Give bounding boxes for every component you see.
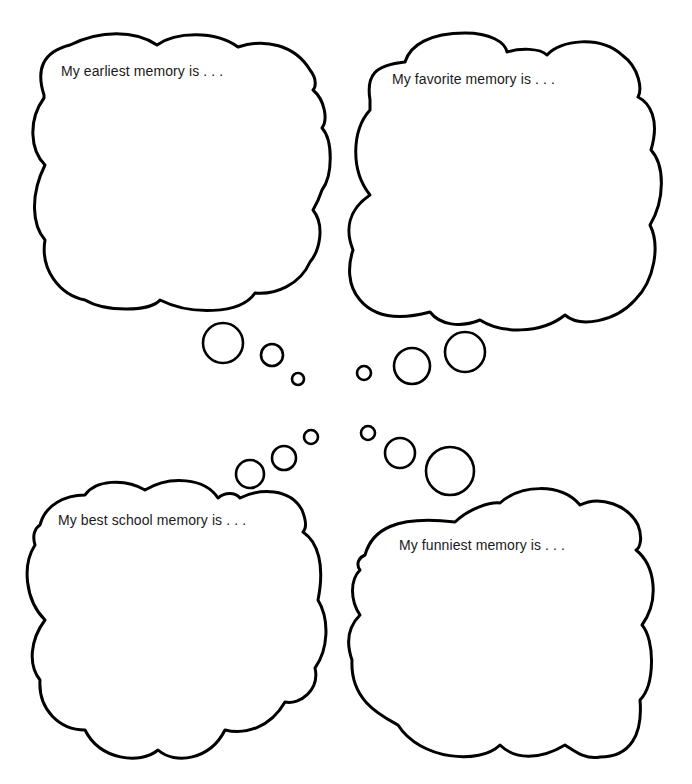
prompt-favorite-memory: My favorite memory is . . .: [392, 71, 555, 87]
bubble: [236, 460, 264, 488]
bubble: [357, 366, 371, 380]
bubble: [261, 344, 283, 366]
bubble: [304, 430, 318, 444]
thought-bubbles-bottom-right: [361, 426, 474, 495]
cloud-funniest-memory: [349, 489, 653, 758]
bubble: [385, 438, 415, 468]
worksheet-artwork: [0, 0, 692, 784]
bubble: [292, 373, 304, 385]
prompt-earliest-memory: My earliest memory is . . .: [61, 63, 223, 79]
prompt-funniest-memory: My funniest memory is . . .: [399, 537, 565, 553]
thought-bubbles-top-right: [357, 332, 485, 384]
thought-bubbles-bottom-left: [236, 430, 318, 488]
bubble: [394, 348, 430, 384]
thought-bubbles-top-left: [203, 323, 304, 385]
bubble: [426, 447, 474, 495]
bubble: [445, 332, 485, 372]
bubble: [203, 323, 243, 363]
prompt-best-school-memory: My best school memory is . . .: [58, 512, 246, 528]
bubble: [361, 426, 375, 440]
bubble: [272, 446, 296, 470]
